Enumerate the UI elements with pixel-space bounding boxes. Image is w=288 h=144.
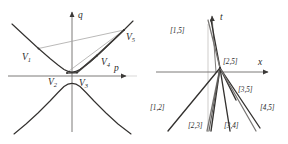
vertex-marker-V2: [66, 72, 68, 74]
t-axis-label: t: [220, 12, 223, 22]
label-V5: V5: [126, 32, 136, 43]
label-V1: V1: [22, 52, 31, 63]
vertex-marker-V5: [123, 29, 125, 31]
hyperbola-lower-branch: [14, 83, 131, 134]
vertex-marker-V4: [96, 55, 98, 57]
label-interval-3-4: [3,4]: [224, 122, 239, 130]
hyperbola-vertex-panel: V1 V2 V3 V4 V5 p q: [0, 0, 144, 144]
vertex-marker-V3: [76, 72, 78, 74]
ray-group: [168, 20, 260, 131]
label-interval-1-2: [1,2]: [150, 104, 165, 112]
x-axis-label: x: [257, 57, 263, 67]
label-interval-4-5: [4,5]: [260, 104, 275, 112]
ray-1-5-b: [208, 20, 220, 68]
label-V4: V4: [101, 57, 111, 68]
q-axis-label: q: [78, 10, 83, 20]
chord-group: [39, 30, 125, 73]
label-interval-2-3: [2,3]: [188, 122, 203, 130]
p-axis-label: p: [113, 63, 119, 73]
label-interval-1-5: [1,5]: [170, 27, 185, 35]
label-V2: V2: [48, 77, 58, 88]
figure-root: V1 V2 V3 V4 V5 p q: [0, 0, 288, 144]
label-interval-2-5: [2,5]: [223, 58, 238, 66]
vertex-marker-V1: [38, 48, 40, 50]
ray-fan-panel: [1,5] [2,5] [3,5] [1,2] [2,3] [3,4] [4,5…: [144, 0, 288, 144]
label-interval-3-5: [3,5]: [238, 86, 253, 94]
label-V3: V3: [79, 78, 89, 89]
ray-4-5-a: [220, 68, 260, 128]
vertex-marker-group: [38, 29, 125, 74]
common-vertex-marker: [219, 67, 221, 69]
ray-2-3-c: [209, 68, 220, 131]
